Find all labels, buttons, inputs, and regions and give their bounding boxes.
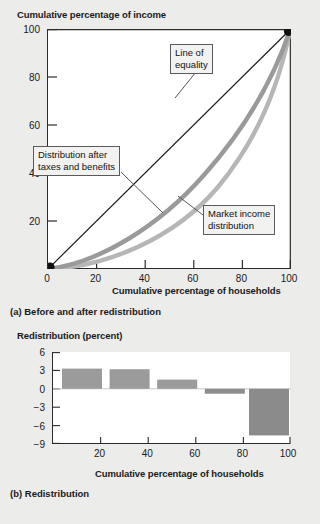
panel-b-x-tickmarks: [101, 437, 290, 444]
callout-after-taxes-line2: taxes and benefits: [38, 161, 115, 173]
panel-a-lorenz-chart: Cumulative percentage of income 100 80 6…: [0, 0, 320, 300]
panel-b-x-axis-title: Cumulative percentage of households: [95, 468, 264, 479]
callout-after-taxes-line1: Distribution after: [38, 149, 115, 161]
panel-b-xtick-80: 80: [237, 448, 248, 459]
bar-quintile-5: [249, 389, 289, 436]
panel-a-ytick-20: 20: [0, 216, 40, 227]
panel-a-caption: (a) Before and after redistribution: [10, 306, 161, 317]
panel-a-xtick-40: 40: [139, 273, 150, 284]
bar-quintile-1: [62, 369, 102, 389]
bar-quintile-3: [157, 380, 197, 389]
callout-line-of-equality-line1: Line of: [175, 47, 208, 59]
bar-quintile-4: [205, 389, 245, 394]
panel-a-y-tickmarks: [48, 30, 57, 221]
callout-line-of-equality: Line of equality: [170, 44, 213, 74]
panel-a-xtick-0: 0: [44, 273, 50, 284]
panel-b-ytick-6: 6: [0, 347, 45, 358]
callout-market-income-distribution: Market income distribution: [203, 205, 275, 235]
bar-quintile-2: [110, 369, 150, 389]
panel-b-xtick-100: 100: [280, 448, 297, 459]
panel-b-xtick-60: 60: [189, 448, 200, 459]
panel-a-x-tickmarks: [97, 260, 291, 269]
panel-b-ytick-neg3: −3: [0, 402, 45, 413]
panel-b-ytick-neg6: −6: [0, 420, 45, 431]
panel-b-ytick-0: 0: [0, 383, 45, 394]
panel-a-ytick-60: 60: [0, 120, 40, 131]
panel-b-redistribution-chart: Redistribution (percent) 6 3 0 −3 −6 −9: [0, 330, 320, 524]
callout-line-of-equality-line2: equality: [175, 59, 208, 71]
panel-b-xtick-40: 40: [142, 448, 153, 459]
figure-root: Cumulative percentage of income 100 80 6…: [0, 0, 320, 524]
panel-a-ytick-80: 80: [0, 72, 40, 83]
panel-b-bars: [53, 352, 291, 444]
panel-a-ytick-100: 100: [0, 24, 40, 35]
panel-a-x-axis-title: Cumulative percentage of households: [112, 285, 281, 296]
callout-distribution-after-taxes: Distribution after taxes and benefits: [33, 146, 120, 176]
panel-b-caption: (b) Redistribution: [10, 488, 89, 499]
callout-market-income-line1: Market income: [208, 208, 270, 220]
panel-b-y-tickmarks: [53, 353, 60, 444]
panel-a-xtick-80: 80: [236, 273, 247, 284]
panel-b-xtick-20: 20: [94, 448, 105, 459]
panel-b-plot-area: [52, 352, 290, 444]
panel-b-ytick-3: 3: [0, 365, 45, 376]
callout-market-income-line2: distribution: [208, 220, 270, 232]
panel-a-xtick-60: 60: [187, 273, 198, 284]
panel-b-ytick-neg9: −9: [0, 439, 45, 450]
panel-a-xtick-20: 20: [90, 273, 101, 284]
panel-a-xtick-100: 100: [281, 273, 298, 284]
panel-a-y-axis-title: Cumulative percentage of income: [17, 9, 166, 20]
panel-b-y-axis-title: Redistribution (percent): [17, 330, 122, 341]
